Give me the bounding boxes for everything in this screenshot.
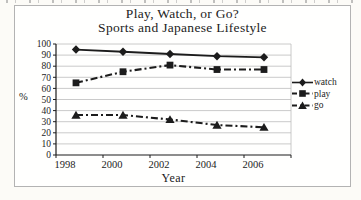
y-tick-label: 30 — [42, 117, 52, 127]
legend: watch play go — [292, 77, 337, 110]
legend-item-play: play — [292, 89, 337, 99]
square-marker-icon — [299, 90, 306, 97]
y-tick-label: 50 — [42, 95, 52, 105]
x-tick-label: 2000 — [102, 159, 123, 170]
data-point-watch — [166, 50, 174, 58]
data-point-play — [261, 66, 268, 73]
legend-label-play: play — [314, 89, 330, 99]
y-tick-label: 0 — [46, 150, 51, 160]
chart-title: Play, Watch, or Go? — [15, 7, 350, 21]
y-tick-label: 20 — [42, 128, 52, 138]
legend-line-go-icon — [292, 101, 313, 110]
legend-label-go: go — [314, 100, 324, 110]
y-tick-label: 40 — [42, 106, 52, 116]
y-tick-label: 10 — [42, 139, 52, 149]
data-point-play — [167, 62, 174, 69]
data-point-play — [214, 66, 221, 73]
x-axis-label: Year — [56, 171, 291, 186]
legend-item-go: go — [292, 100, 337, 110]
screenshot-root: Play, Watch, or Go? Sports and Japanese … — [0, 0, 361, 200]
legend-line-play-icon — [292, 89, 313, 98]
x-tick-label: 2002 — [149, 159, 170, 170]
data-point-play — [120, 68, 127, 75]
y-tick-label: 60 — [42, 84, 52, 94]
x-tick-label: 1998 — [55, 159, 76, 170]
chart-subtitle: Sports and Japanese Lifestyle — [15, 21, 350, 35]
chart-frame: Play, Watch, or Go? Sports and Japanese … — [14, 5, 351, 187]
x-tick-label: 2006 — [243, 159, 264, 170]
y-tick-label: 90 — [42, 50, 52, 60]
data-point-watch — [213, 52, 221, 60]
y-tick-label: 100 — [37, 39, 52, 49]
legend-label-watch: watch — [314, 77, 337, 87]
x-tick-label: 2004 — [196, 159, 218, 170]
diamond-marker-icon — [299, 78, 306, 86]
y-tick-label: 80 — [42, 61, 52, 71]
data-point-play — [73, 79, 80, 86]
cropped-text-remnant — [6, 0, 356, 3]
y-tick-label: 70 — [42, 73, 52, 83]
legend-item-watch: watch — [292, 77, 337, 87]
legend-line-watch-icon — [292, 78, 313, 87]
data-point-watch — [72, 45, 80, 53]
data-point-watch — [260, 53, 268, 61]
y-axis-label: % — [19, 91, 28, 102]
